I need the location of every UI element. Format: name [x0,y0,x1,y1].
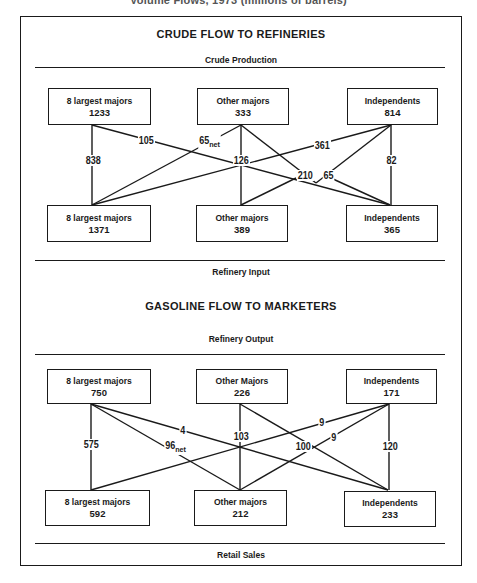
crude-flow-label-126: 126 [233,155,250,166]
gasoline-flow-label-9b: 9 [330,432,337,443]
box-name: Independents [352,212,433,224]
gasoline-dest-independents: Independents 233 [344,491,436,527]
box-name: Other majors [202,212,283,224]
gasoline-flow-label-100: 100 [295,441,312,452]
box-name: 8 largest majors [53,375,145,387]
gasoline-dest-other-majors: Other majors 212 [194,490,287,526]
crude-flow-label-65: 65 [323,170,335,181]
box-name: Other Majors [202,375,283,387]
box-name: Other majors [203,95,284,107]
crude-flow-label-838: 838 [85,155,102,166]
box-name: 8 largest majors [53,212,145,224]
box-name: Independents [352,95,432,107]
crude-flow-label-210: 210 [297,170,314,181]
box-value: 333 [198,107,288,119]
crude-flow-label-361: 361 [314,140,331,151]
box-name: Independents [351,375,431,387]
crude-dest-8-largest-majors: 8 largest majors 1371 [47,205,151,242]
crude-dest-independents: Independents 365 [346,205,438,242]
box-value: 814 [348,107,437,119]
crude-source-independents: Independents 814 [347,88,438,125]
box-value: 212 [195,508,286,520]
box-value: 750 [48,387,150,399]
box-value: 1233 [49,107,150,119]
gasoline-flow-label-4: 4 [179,425,186,436]
crude-flow-label-105: 105 [138,135,155,146]
box-name: Independents [350,497,431,509]
crude-source-other-majors: Other majors 333 [197,88,289,125]
box-value: 592 [46,508,149,520]
gasoline-flow-label-575: 575 [83,439,100,450]
crude-flow-label-65net: 65net [198,135,221,150]
box-name: Other majors [200,496,282,508]
box-name: 8 largest majors [54,95,145,107]
gasoline-source-independents: Independents 171 [346,369,437,404]
crude-flow-label-82: 82 [386,155,398,166]
gasoline-dest-8-largest-majors: 8 largest majors 592 [45,490,150,526]
gasoline-flow-label-103: 103 [233,431,250,442]
box-value: 365 [347,224,437,236]
box-value: 171 [347,387,436,399]
box-value: 233 [345,509,435,521]
box-value: 226 [197,387,287,399]
crude-flow-210 [241,178,296,205]
gasoline-source-8-largest-majors: 8 largest majors 750 [47,369,151,404]
box-value: 1371 [48,224,150,236]
gasoline-source-other-majors: Other Majors 226 [196,369,288,404]
gasoline-flow-label-96net: 96net [164,440,187,455]
gasoline-flow-label-120: 120 [382,441,399,452]
gasoline-flow-label-9a: 9 [318,417,325,428]
box-value: 389 [197,224,287,236]
box-name: 8 largest majors [51,496,144,508]
crude-source-8-largest-majors: 8 largest majors 1233 [48,88,151,125]
crude-dest-other-majors: Other majors 389 [196,205,288,242]
